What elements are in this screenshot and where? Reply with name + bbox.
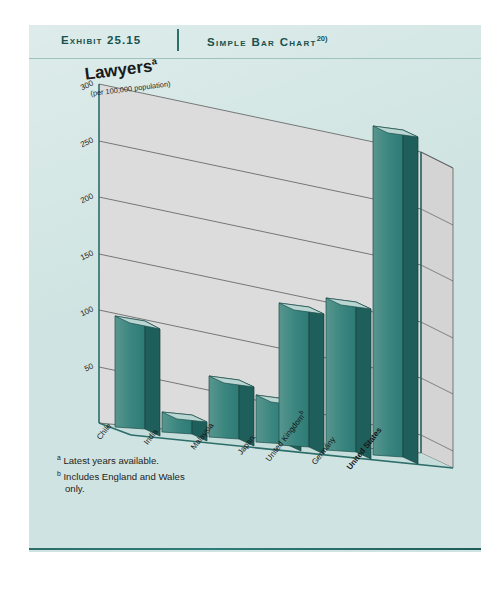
- page-root: Exhibit 25.15 Simple Bar Chart20): [0, 0, 503, 602]
- footnote-b: b Includes England and Wales only.: [57, 468, 192, 496]
- bar-chile: [115, 316, 160, 436]
- footnote-b-marker: b: [57, 470, 61, 477]
- exhibit-label: Exhibit 25.15: [61, 34, 141, 46]
- footnote-a-text: Latest years available.: [63, 455, 158, 466]
- bar-chart: Lawyersa (per 100,000 population) 300 25…: [29, 58, 481, 548]
- footnote-b-text: Includes England and Wales only.: [63, 471, 184, 494]
- footnote-a: a Latest years available.: [57, 452, 192, 468]
- bar-united-states: [373, 126, 418, 464]
- exhibit-title-superscript: 20): [317, 34, 328, 43]
- header-divider: [177, 29, 179, 51]
- bottom-rule: [29, 548, 481, 550]
- bar-germany: [326, 298, 371, 459]
- exhibit-title: Simple Bar Chart20): [207, 34, 328, 48]
- exhibit-title-text: Simple Bar Chart: [207, 36, 317, 48]
- chart-right-wall: [421, 152, 453, 468]
- footnotes: a Latest years available. b Includes Eng…: [57, 452, 192, 496]
- exhibit-header: Exhibit 25.15 Simple Bar Chart20): [29, 25, 481, 58]
- footnote-a-marker: a: [57, 454, 61, 461]
